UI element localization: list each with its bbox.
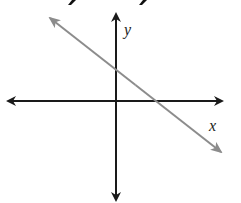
coordinate-graph: y x (0, 0, 241, 203)
cropped-top-text (68, 0, 147, 5)
y-axis-label: y (122, 21, 132, 39)
graphed-line-upper (50, 18, 136, 85)
x-axis-label: x (208, 117, 216, 134)
